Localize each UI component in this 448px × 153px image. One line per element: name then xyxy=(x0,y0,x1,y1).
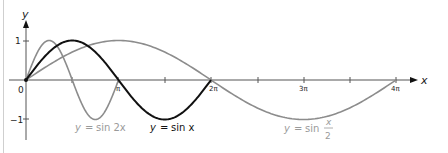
y-axis-label: y xyxy=(21,8,29,21)
y-tick-1-label: 1 xyxy=(15,36,21,46)
x-axis-label: x xyxy=(420,74,428,87)
svg-text:y: y xyxy=(74,122,82,133)
label-sin-x: y = sin x xyxy=(149,122,195,133)
x-tick-3pi-label: 3π xyxy=(299,85,308,93)
origin-point xyxy=(24,78,28,82)
x-axis-arrow-icon xyxy=(410,77,418,83)
y-axis-arrow-icon xyxy=(23,20,29,28)
svg-text:y: y xyxy=(283,123,291,134)
svg-text:2: 2 xyxy=(325,131,331,141)
svg-text:sin 2x: sin 2x xyxy=(96,122,126,133)
axes xyxy=(9,20,418,140)
x-tick-4pi-label: 4π xyxy=(391,85,400,93)
sine-graph: y x 0 1 −1 π 2π 3π 4π y = sin 2x y = sin… xyxy=(0,0,448,153)
label-sin-half-x: y = sin x 2 xyxy=(283,117,333,141)
y-tick-minus1-label: −1 xyxy=(10,115,23,125)
svg-text:y: y xyxy=(149,122,157,133)
x-tick-pi-label: π xyxy=(116,85,121,93)
origin-label: 0 xyxy=(18,85,24,95)
svg-text:=: = xyxy=(160,122,168,133)
label-sin-2x: y = sin 2x xyxy=(74,122,126,133)
svg-text:x: x xyxy=(325,117,332,127)
svg-text:=: = xyxy=(85,122,93,133)
svg-text:sin: sin xyxy=(305,123,319,134)
x-tick-2pi-label: 2π xyxy=(209,85,218,93)
svg-text:sin x: sin x xyxy=(171,122,195,133)
svg-text:=: = xyxy=(294,123,302,134)
